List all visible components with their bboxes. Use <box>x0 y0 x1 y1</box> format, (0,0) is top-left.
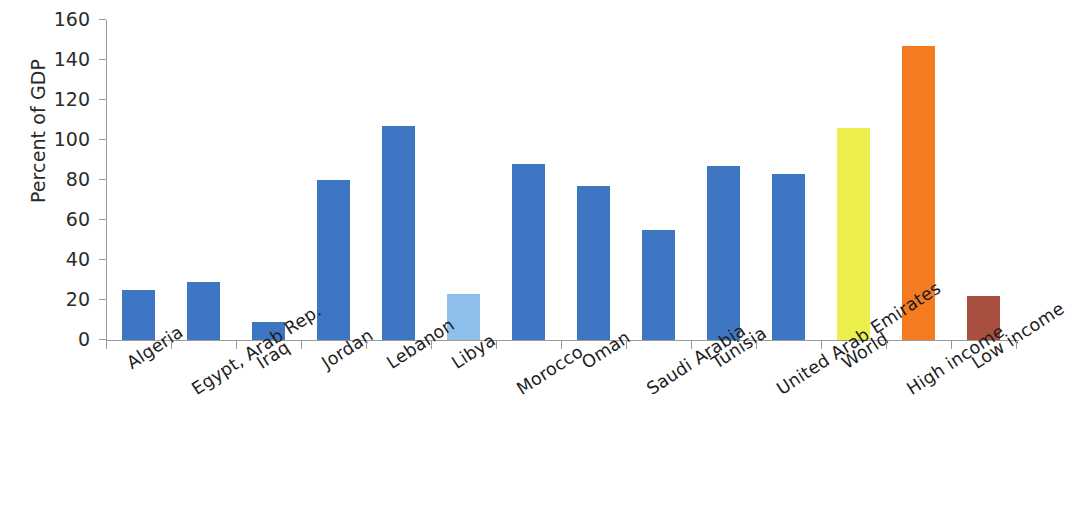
y-axis-tick: 80 <box>99 179 106 180</box>
bar <box>707 166 740 340</box>
x-axis-label: Morocco <box>513 341 587 398</box>
y-axis-tick: 120 <box>99 99 106 100</box>
y-axis-tick-label: 160 <box>54 8 90 30</box>
x-axis-tick <box>561 341 562 349</box>
y-axis-tick: 160 <box>99 19 106 20</box>
x-axis-tick <box>366 341 367 349</box>
y-axis-tick: 140 <box>99 59 106 60</box>
x-axis-tick <box>886 341 887 349</box>
x-axis-tick <box>106 341 107 349</box>
y-axis-tick: 40 <box>99 259 106 260</box>
bar <box>837 128 870 340</box>
x-axis-tick <box>951 341 952 349</box>
x-axis-tick <box>496 341 497 349</box>
bar <box>187 282 220 340</box>
bar <box>122 290 155 340</box>
x-axis-tick <box>236 341 237 349</box>
y-axis-tick-label: 60 <box>66 208 90 230</box>
y-axis-tick-label: 140 <box>54 48 90 70</box>
y-axis-tick-label: 20 <box>66 288 90 310</box>
x-axis-tick <box>301 341 302 349</box>
y-axis-tick: 60 <box>99 219 106 220</box>
x-axis-tick <box>626 341 627 349</box>
y-axis-tick: 20 <box>99 299 106 300</box>
y-axis-tick-label: 120 <box>54 88 90 110</box>
bar <box>772 174 805 340</box>
y-axis-title: Percent of GDP <box>27 21 49 241</box>
y-axis-tick: 100 <box>99 139 106 140</box>
bar <box>577 186 610 340</box>
x-axis-tick <box>756 341 757 349</box>
bar <box>512 164 545 340</box>
y-axis-tick-label: 40 <box>66 248 90 270</box>
x-axis-tick <box>1016 341 1017 349</box>
bar <box>382 126 415 340</box>
x-axis-tick <box>431 341 432 349</box>
y-axis-tick-label: 100 <box>54 128 90 150</box>
bar <box>642 230 675 340</box>
x-axis-tick <box>691 341 692 349</box>
x-axis-tick <box>171 341 172 349</box>
x-axis-tick <box>821 341 822 349</box>
y-axis-tick: 0 <box>99 339 106 340</box>
y-axis-tick-label: 80 <box>66 168 90 190</box>
plot-area: 020406080100120140160 <box>106 20 1016 340</box>
y-axis-tick-label: 0 <box>78 328 90 350</box>
